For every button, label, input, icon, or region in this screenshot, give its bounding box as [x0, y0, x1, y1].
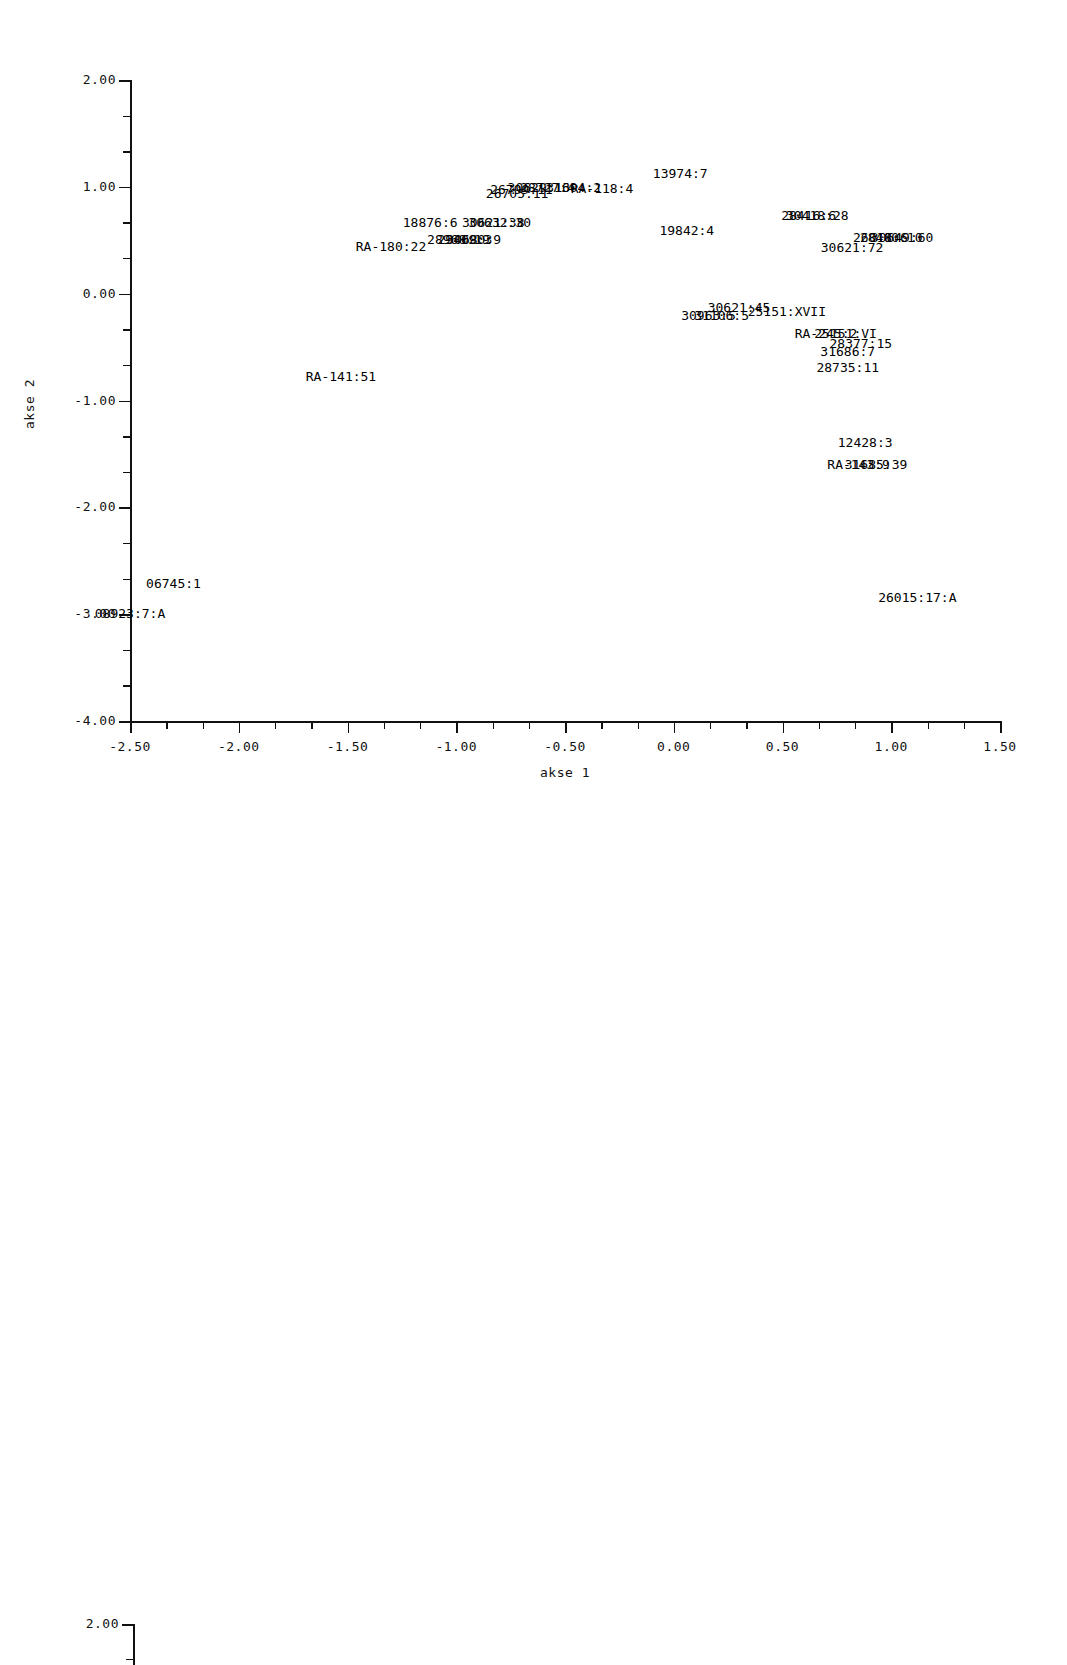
x-tick-major: [783, 721, 785, 733]
x-tick-minor: [928, 721, 929, 729]
x-tick-minor: [203, 721, 204, 729]
x-tick-minor: [493, 721, 494, 729]
x-tick-major: [239, 721, 241, 733]
data-point-label: 30621:72: [821, 241, 884, 254]
y-tick-minor: [126, 1659, 134, 1660]
x-tick-label: -1.50: [318, 739, 378, 754]
x-tick-major: [674, 721, 676, 733]
data-point-label: 25151:XVII: [748, 305, 826, 318]
data-point-label: 31685:39: [845, 458, 908, 471]
y-tick-minor: [123, 116, 131, 117]
chart-panel-1: 2.001.000.00-1.00-2.00-3.00-4.00-2.50-2.…: [0, 0, 1067, 800]
x-tick-major: [1000, 721, 1002, 733]
x-tick-minor: [384, 721, 385, 729]
x-tick-label: -1.00: [426, 739, 486, 754]
x-tick-label: 1.50: [970, 739, 1030, 754]
x-tick-major: [891, 721, 893, 733]
x-tick-label: -2.00: [209, 739, 269, 754]
data-point-label: RA-118:4: [571, 182, 634, 195]
chart-panel-2: 2.001.000.00-1.00-2.00-3.00-4.00-3.00-2.…: [0, 800, 1067, 1665]
y-tick-minor: [123, 151, 131, 152]
y-axis-title: akse 2: [22, 379, 37, 429]
x-tick-minor: [710, 721, 711, 729]
x-tick-minor: [638, 721, 639, 729]
y-tick-minor: [123, 579, 131, 580]
x-tick-major: [130, 721, 132, 733]
data-point-label: RA-180:22: [356, 240, 426, 253]
data-point-label: RA-141:51: [306, 370, 376, 383]
data-point-label: 06745:1: [146, 577, 201, 590]
data-point-label: 19842:4: [659, 224, 714, 237]
y-tick-minor: [123, 436, 131, 437]
data-point-label: 30632:30: [468, 216, 531, 229]
x-tick-minor: [311, 721, 312, 729]
x-tick-label: -0.50: [535, 739, 595, 754]
data-point-label: 30418:28: [786, 209, 849, 222]
x-tick-minor: [601, 721, 602, 729]
data-point-label: 31106:5: [694, 309, 749, 322]
y-tick-minor: [123, 650, 131, 651]
y-tick-label: -1.00: [54, 393, 116, 408]
x-tick-minor: [529, 721, 530, 729]
data-point-label: 30680:9: [446, 233, 501, 246]
y-tick-label: 2.00: [54, 72, 116, 87]
y-tick-label: 0.00: [54, 286, 116, 301]
data-point-label: 18876:6: [403, 216, 458, 229]
y-tick-major: [119, 401, 131, 403]
y-tick-minor: [123, 543, 131, 544]
data-point-label: 12428:3: [838, 436, 893, 449]
y-tick-label: -4.00: [54, 713, 116, 728]
x-tick-major: [348, 721, 350, 733]
y-tick-major: [119, 507, 131, 509]
y-tick-minor: [123, 472, 131, 473]
x-tick-label: 1.00: [861, 739, 921, 754]
x-tick-minor: [855, 721, 856, 729]
x-tick-minor: [819, 721, 820, 729]
y-tick-minor: [123, 365, 131, 366]
x-tick-minor: [746, 721, 747, 729]
x-tick-major: [456, 721, 458, 733]
x-tick-label: 0.50: [753, 739, 813, 754]
data-point-label: 13974:7: [653, 167, 708, 180]
y-tick-minor: [123, 222, 131, 223]
x-tick-label: -2.50: [100, 739, 160, 754]
x-tick-major: [565, 721, 567, 733]
y-tick-minor: [123, 329, 131, 330]
y-tick-major: [119, 294, 131, 296]
y-tick-minor: [123, 685, 131, 686]
data-point-label: 08923:7:A: [95, 607, 165, 620]
x-tick-minor: [166, 721, 167, 729]
x-tick-minor: [420, 721, 421, 729]
x-tick-minor: [964, 721, 965, 729]
y-tick-major: [119, 187, 131, 189]
y-tick-label: -2.00: [54, 499, 116, 514]
y-tick-major: [122, 1624, 134, 1626]
y-tick-major: [119, 80, 131, 82]
x-tick-label: 0.00: [644, 739, 704, 754]
x-tick-minor: [275, 721, 276, 729]
y-tick-minor: [123, 258, 131, 259]
y-tick-label: 1.00: [54, 179, 116, 194]
data-point-label: 26015:17:A: [878, 591, 956, 604]
y-tick-label: 2.00: [57, 1616, 119, 1631]
data-point-label: 31686:7: [820, 345, 875, 358]
data-point-label: 28735:11: [816, 361, 879, 374]
x-axis-title: akse 1: [525, 765, 605, 780]
